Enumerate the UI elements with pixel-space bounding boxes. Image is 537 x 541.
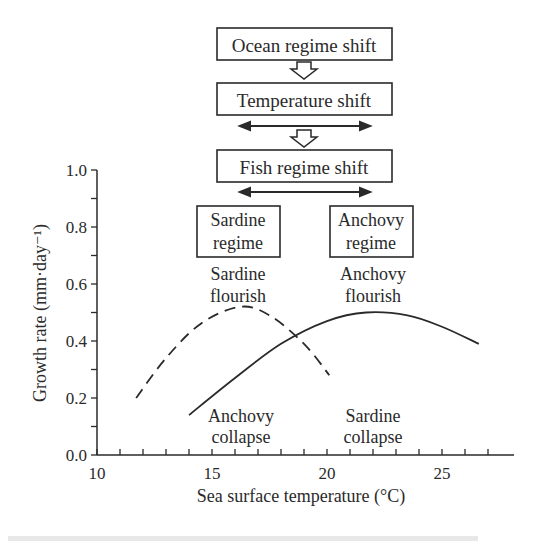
anchovy-regime-box: Anchovy regime bbox=[330, 206, 413, 257]
hollow-down-arrow-icon bbox=[291, 62, 317, 79]
svg-text:10: 10 bbox=[89, 464, 106, 483]
anchovy-growth-curve bbox=[189, 312, 479, 415]
y-axis-label: Growth rate (mm·day⁻¹) bbox=[30, 224, 51, 402]
regime-diagram: Ocean regime shift Temperature shift Fis… bbox=[0, 0, 537, 541]
svg-text:0.6: 0.6 bbox=[66, 275, 87, 294]
anchovy-flourish-label: Anchovy flourish bbox=[340, 264, 406, 306]
svg-text:Anchovy: Anchovy bbox=[208, 406, 274, 426]
x-tick-labels: 10152025 bbox=[89, 464, 451, 483]
sardine-regime-box: Sardine regime bbox=[197, 206, 280, 257]
svg-text:Anchovy: Anchovy bbox=[340, 264, 406, 284]
svg-text:Anchovy: Anchovy bbox=[338, 210, 404, 230]
svg-text:collapse: collapse bbox=[212, 427, 271, 447]
svg-text:Sardine: Sardine bbox=[346, 406, 401, 426]
fish-regime-shift-box: Fish regime shift bbox=[217, 150, 392, 182]
temperature-shift-box: Temperature shift bbox=[217, 83, 392, 115]
svg-text:flourish: flourish bbox=[345, 286, 401, 306]
svg-text:20: 20 bbox=[319, 464, 336, 483]
svg-text:0.0: 0.0 bbox=[66, 446, 87, 465]
sardine-collapse-label: Sardine collapse bbox=[344, 406, 403, 447]
sardine-growth-curve bbox=[136, 307, 329, 398]
svg-text:regime: regime bbox=[346, 233, 396, 253]
svg-text:flourish: flourish bbox=[210, 286, 266, 306]
sardine-flourish-label: Sardine flourish bbox=[210, 264, 266, 306]
temperature-shift-label: Temperature shift bbox=[237, 90, 372, 111]
svg-text:1.0: 1.0 bbox=[66, 161, 87, 180]
x-axis-label: Sea surface temperature (°C) bbox=[197, 486, 406, 507]
svg-text:0.4: 0.4 bbox=[66, 332, 88, 351]
hollow-down-arrow-icon bbox=[291, 130, 317, 147]
axes bbox=[97, 170, 514, 455]
svg-text:15: 15 bbox=[204, 464, 221, 483]
svg-text:0.2: 0.2 bbox=[66, 389, 87, 408]
anchovy-collapse-label: Anchovy collapse bbox=[208, 406, 274, 447]
svg-text:regime: regime bbox=[213, 233, 263, 253]
svg-text:collapse: collapse bbox=[344, 427, 403, 447]
svg-text:0.8: 0.8 bbox=[66, 218, 87, 237]
cropped-caption bbox=[8, 536, 478, 541]
ocean-regime-shift-box: Ocean regime shift bbox=[217, 28, 392, 60]
y-ticks bbox=[91, 170, 97, 455]
y-tick-labels: 0.00.20.40.60.81.0 bbox=[66, 161, 88, 465]
ocean-regime-shift-label: Ocean regime shift bbox=[232, 35, 377, 56]
svg-text:Sardine: Sardine bbox=[211, 264, 266, 284]
svg-text:Sardine: Sardine bbox=[211, 210, 266, 230]
fish-regime-shift-label: Fish regime shift bbox=[240, 157, 369, 178]
svg-text:25: 25 bbox=[434, 464, 451, 483]
x-ticks bbox=[97, 449, 488, 455]
